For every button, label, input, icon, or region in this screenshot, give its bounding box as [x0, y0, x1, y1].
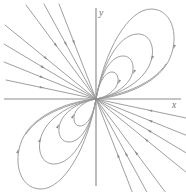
phase-portrait-figure: x y	[0, 0, 186, 192]
trajectory-loop-q3-enter-1	[26, 99, 96, 134]
y-axis-label: y	[98, 8, 104, 18]
x-axis-label: x	[171, 100, 177, 110]
flow-arrow-loop-q3-mid-0	[38, 137, 42, 142]
flow-arrow-ray-q2-2-0	[39, 75, 44, 79]
trajectory-ray-q2-3	[4, 44, 96, 99]
flow-arrow-ray-q4-7-0	[116, 153, 120, 158]
trajectory-loop-q1-outer	[96, 9, 174, 99]
flow-arrow-ray-q4-2-0	[147, 119, 152, 123]
trajectory-ray-q4-4	[96, 99, 186, 173]
trajectory-ray-q2-7	[59, 4, 96, 99]
trajectory-ray-q2-6	[44, 4, 96, 99]
trajectories-group	[4, 4, 186, 192]
trajectory-ray-q4-7	[96, 99, 133, 192]
flow-arrow-ray-q2-7-0	[72, 40, 76, 45]
trajectory-ray-q2-4	[5, 25, 96, 99]
trajectory-loop-q3-outer	[18, 99, 96, 189]
trajectory-ray-q2-1	[6, 80, 96, 99]
phase-portrait-canvas: x y	[0, 0, 186, 192]
flow-arrow-loop-q1-mid-0	[150, 55, 154, 60]
flow-arrow-loop-q3-outer-0	[16, 148, 20, 153]
trajectory-ray-q4-6	[96, 99, 148, 192]
trajectory-loop-q1-enter-1	[96, 64, 166, 99]
flow-arrow-loop-q1-outer-0	[172, 44, 176, 49]
